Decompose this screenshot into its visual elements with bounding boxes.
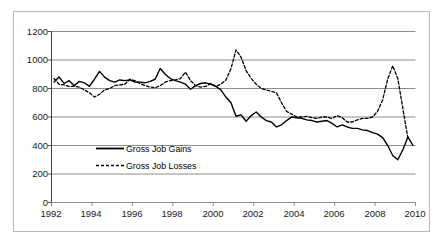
plot-canvas: Gross Job Gains Gross Job Losses xyxy=(0,0,445,244)
chart-figure: 1200 1000 800 600 400 200 0 1992 1994 19… xyxy=(0,0,445,244)
series-line-gross-job-gains xyxy=(54,69,413,160)
legend: Gross Job Gains Gross Job Losses xyxy=(96,144,197,171)
legend-label-gross-job-gains: Gross Job Gains xyxy=(126,144,192,154)
series-line-gross-job-losses xyxy=(54,50,408,138)
legend-label-gross-job-losses: Gross Job Losses xyxy=(126,161,197,171)
gridlines xyxy=(52,32,416,175)
